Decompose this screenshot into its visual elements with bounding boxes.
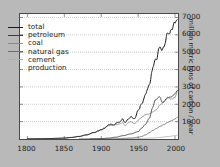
series-total [27, 20, 177, 139]
y-axis-title: million metric tons of carbon / year [184, 13, 198, 140]
series-coal [27, 91, 177, 139]
x-tick-label-2: 1900 [86, 144, 116, 153]
x-tick-label-0: 1800 [11, 144, 41, 153]
series-petroleum [79, 91, 177, 139]
plot-area [19, 13, 179, 140]
x-tick-label-1: 1850 [49, 144, 79, 153]
x-tick-label-4: 2000 [161, 144, 191, 153]
x-tick-label-3: 1950 [124, 144, 154, 153]
chart-figure: total petroleum coal natural gas cement … [0, 0, 220, 167]
chart-canvas [20, 14, 178, 139]
